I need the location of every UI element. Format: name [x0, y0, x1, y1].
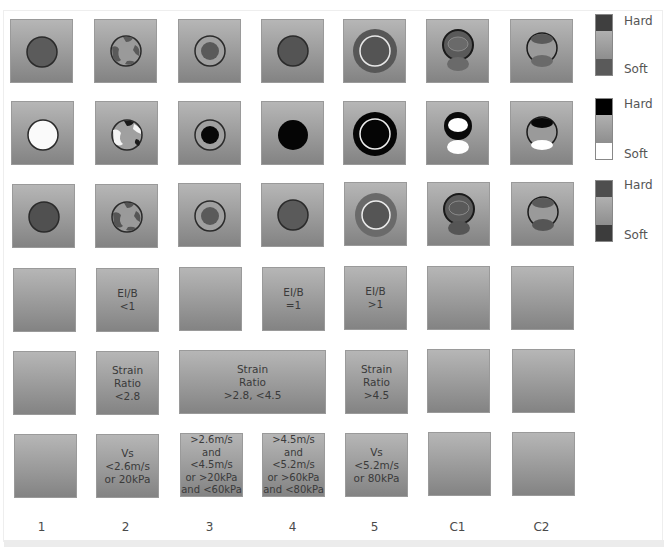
r1-cC2-cell [510, 19, 573, 83]
column-label-1: 1 [10, 520, 73, 534]
elb-cell-1 [13, 268, 76, 332]
legend-soft-label: Soft [624, 228, 648, 242]
strain-cell-c1 [427, 349, 490, 413]
legend-bar-row-1 [595, 14, 613, 76]
strain-cell-c2 [512, 349, 575, 413]
r1-c2-cell [94, 19, 157, 83]
lesion-uniform-icon [262, 20, 324, 83]
lesion-uniform-icon [13, 185, 75, 248]
legend-mid-swatch [596, 115, 612, 143]
legend-hard-swatch [596, 99, 612, 115]
r3-c2-cell [95, 184, 158, 248]
shear-cell-c1 [428, 432, 491, 496]
r3-cC1-cell [427, 182, 490, 246]
r2-cC1-cell [426, 101, 489, 165]
elb-label: EI/B >1 [345, 285, 406, 311]
legend-hard-swatch [596, 181, 612, 197]
r3-c3-cell [178, 183, 241, 247]
legend-mid-swatch [596, 31, 612, 59]
column-label-4: 4 [261, 520, 324, 534]
elb-label: EI/B <1 [97, 287, 158, 313]
legend-hard-label: Hard [624, 178, 653, 192]
lesion-rim-icon [179, 20, 241, 83]
legend-hard-label: Hard [624, 14, 653, 28]
legend-mid-swatch [596, 197, 612, 225]
shear-wave-label: Vs <5.2m/s or 80kPa [346, 446, 407, 485]
legend-soft-swatch [596, 143, 612, 159]
column-label-5: 5 [343, 520, 406, 534]
r3-cC2-cell [511, 182, 574, 246]
legend-hard-label: Hard [624, 97, 653, 111]
lesion-bulls-eye-icon [428, 183, 490, 246]
bottom-strip [4, 540, 664, 547]
shear-cell-4: >4.5m/s and <5.2m/s or >60kPa and <80kPa [262, 433, 325, 497]
lesion-mosaic-icon [95, 20, 157, 83]
legend-soft-swatch [596, 225, 612, 241]
strain-ratio-label: Strain Ratio >2.8, <4.5 [180, 363, 325, 402]
r2-c2-cell [95, 101, 158, 165]
r1-c3-cell [178, 19, 241, 83]
column-label-c2: C2 [510, 520, 573, 534]
strain-cell-2: Strain Ratio <2.8 [96, 351, 159, 415]
r2-cC2-cell [510, 101, 573, 165]
elb-cell-3 [179, 267, 242, 331]
lesion-bgr-icon [511, 102, 573, 165]
elb-cell-2: EI/B <1 [96, 268, 159, 332]
lesion-rim-icon [179, 184, 241, 247]
lesion-halo-icon [344, 102, 406, 165]
legend-soft-swatch [596, 59, 612, 75]
lesion-mosaic-icon [96, 102, 158, 165]
strain-cell-5: Strain Ratio >4.5 [345, 350, 408, 414]
shear-wave-label: Vs <2.6m/s or 20kPa [97, 447, 158, 486]
elb-cell-c1 [427, 266, 490, 330]
lesion-bulls-eye-icon [427, 102, 489, 165]
legend-hard-swatch [596, 15, 612, 31]
lesion-halo-icon [344, 20, 406, 83]
lesion-bgr-icon [512, 183, 574, 246]
lesion-halo-icon [345, 183, 407, 246]
r1-cC1-cell [426, 19, 489, 83]
legend-bar-row-3 [595, 180, 613, 242]
legend-soft-label: Soft [624, 62, 648, 76]
lesion-uniform-icon [11, 20, 73, 83]
shear-wave-label: >2.6m/s and <4.5m/s or >20kPa and <60kPa [181, 434, 242, 497]
legend-bar-row-2 [595, 98, 613, 160]
shear-cell-2: Vs <2.6m/s or 20kPa [96, 434, 159, 498]
legend-soft-label: Soft [624, 147, 648, 161]
strain-cell-3-4: Strain Ratio >2.8, <4.5 [179, 350, 326, 414]
lesion-uniform-icon [262, 184, 324, 247]
lesion-bgr-icon [511, 20, 573, 83]
shear-cell-3: >2.6m/s and <4.5m/s or >20kPa and <60kPa [180, 433, 243, 497]
r2-c5-cell [343, 101, 406, 165]
lesion-uniform-icon [12, 102, 74, 165]
r3-c4-cell [261, 183, 324, 247]
lesion-bulls-eye-icon [427, 20, 489, 83]
elb-cell-c2 [511, 266, 574, 330]
strain-ratio-label: Strain Ratio >4.5 [346, 363, 407, 402]
elb-label: EI/B =1 [263, 286, 324, 312]
strain-cell-1 [13, 351, 76, 415]
shear-wave-label: >4.5m/s and <5.2m/s or >60kPa and <80kPa [263, 434, 324, 497]
r2-c4-cell [261, 101, 324, 165]
shear-cell-1 [14, 434, 77, 498]
r2-c3-cell [178, 101, 241, 165]
r1-c5-cell [343, 19, 406, 83]
shear-cell-5: Vs <5.2m/s or 80kPa [345, 433, 408, 497]
column-label-2: 2 [94, 520, 157, 534]
r1-c1-cell [10, 19, 73, 83]
r3-c1-cell [12, 184, 75, 248]
lesion-mosaic-icon [96, 185, 158, 248]
shear-cell-c2 [512, 432, 575, 496]
lesion-uniform-icon [262, 102, 324, 165]
strain-ratio-label: Strain Ratio <2.8 [97, 364, 158, 403]
column-label-c1: C1 [426, 520, 489, 534]
elb-cell-4: EI/B =1 [262, 267, 325, 331]
r2-c1-cell [11, 101, 74, 165]
lesion-rim-icon [179, 102, 241, 165]
r1-c4-cell [261, 19, 324, 83]
column-label-3: 3 [178, 520, 241, 534]
r3-c5-cell [344, 182, 407, 246]
elb-cell-5: EI/B >1 [344, 266, 407, 330]
